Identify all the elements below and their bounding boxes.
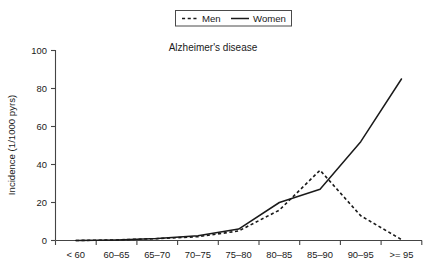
y-tick-label-20: 20 [37,197,47,208]
y-tick-label-0: 0 [42,235,47,246]
y-axis-ticks: 100 80 60 40 20 0 [31,45,55,246]
x-tick-label-60-65: 60–65 [103,249,129,260]
series-line-women [76,79,402,241]
x-axis-ticks [56,241,422,246]
x-tick-label-80-85: 80–85 [266,249,292,260]
x-axis-labels: < 60 60–65 65–70 70–75 75–80 80–85 85–90… [67,249,414,260]
alzheimer-incidence-chart: Men Women Alzheimer's disease Incidence … [0,0,428,280]
chart-title: Alzheimer's disease [169,42,258,53]
x-tick-label-70-75: 70–75 [185,249,211,260]
legend-women-label: Women [253,13,286,24]
x-tick-label-65-70: 65–70 [144,249,170,260]
x-tick-label-90-95: 90–95 [348,249,374,260]
x-tick-label-75-80: 75–80 [226,249,252,260]
x-tick-label-ge95: >= 95 [389,249,413,260]
series-line-men [76,170,402,240]
y-tick-label-80: 80 [37,83,47,94]
y-tick-label-40: 40 [37,159,47,170]
x-tick-label-lt60: < 60 [67,249,86,260]
y-tick-label-60: 60 [37,121,47,132]
y-tick-label-100: 100 [31,45,47,56]
y-axis-title: Incidence (1/1000 pyrs) [6,95,17,195]
legend-men-label: Men [202,13,221,24]
chart-legend: Men Women [176,11,292,27]
x-tick-label-85-90: 85–90 [307,249,333,260]
